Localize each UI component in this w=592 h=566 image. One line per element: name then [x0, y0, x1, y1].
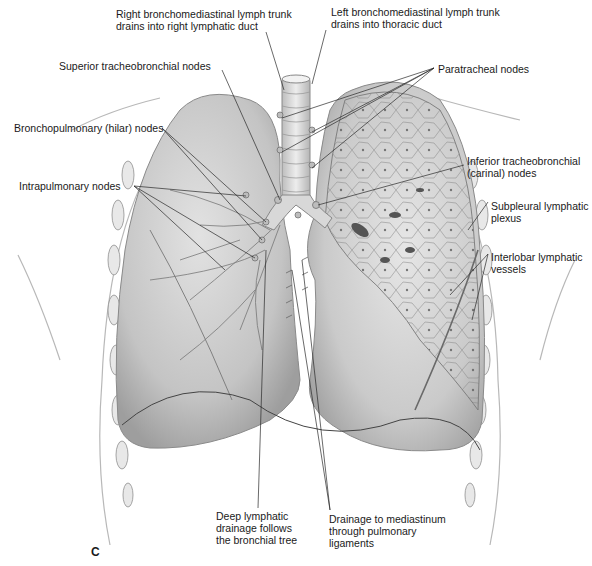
label-hilar-nodes: Bronchopulmonary (hilar) nodes — [14, 122, 163, 134]
label-right-bronchomediastinal-trunk: Right bronchomediastinal lymph trunk dra… — [116, 8, 292, 32]
label-inferior-tracheobronchial-nodes: Inferior tracheobronchial (carinal) node… — [467, 155, 580, 179]
panel-letter: C — [91, 545, 100, 559]
label-drainage-to-mediastinum: Drainage to mediastinum through pulmonar… — [329, 513, 446, 549]
label-paratracheal-nodes: Paratracheal nodes — [438, 63, 529, 75]
label-left-bronchomediastinal-trunk: Left bronchomediastinal lymph trunk drai… — [331, 6, 500, 30]
label-intrapulmonary-nodes: Intrapulmonary nodes — [19, 180, 121, 192]
label-deep-lymphatic-drainage: Deep lymphatic drainage follows the bron… — [216, 510, 297, 546]
label-subpleural-plexus: Subpleural lymphatic plexus — [491, 200, 588, 224]
trachea — [282, 78, 310, 198]
label-interlobar-vessels: Interlobar lymphatic vessels — [491, 251, 583, 275]
label-superior-tracheobronchial-nodes: Superior tracheobronchial nodes — [59, 60, 211, 72]
right-lung — [116, 94, 300, 448]
lung-lymphatics-illustration — [0, 0, 592, 566]
